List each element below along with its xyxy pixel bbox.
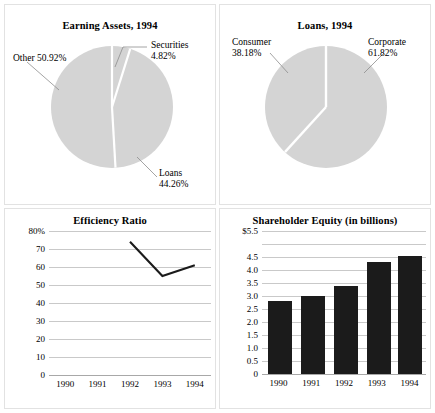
y-tick: 60 bbox=[36, 263, 45, 272]
y-tick: 3.5 bbox=[247, 279, 258, 288]
gridline bbox=[262, 231, 426, 232]
y-tick: 10 bbox=[36, 353, 45, 362]
y-tick: 70 bbox=[36, 245, 45, 254]
figure-sheet: Earning Assets, 1994 Other 50.92% Securi… bbox=[0, 0, 435, 413]
y-tick: 40 bbox=[36, 299, 45, 308]
x-tick: 1993 bbox=[146, 379, 178, 389]
bar-1990 bbox=[268, 301, 292, 374]
leader-line-consumer bbox=[268, 51, 296, 77]
chart-title-equity: Shareholder Equity (in billions) bbox=[220, 215, 430, 226]
pie-label-corporate: Corporate 61.82% bbox=[368, 37, 406, 59]
x-tick: 1990 bbox=[49, 379, 81, 389]
pie-label-other: Other 50.92% bbox=[13, 53, 66, 64]
chart-title-efficiency: Efficiency Ratio bbox=[5, 215, 215, 226]
y-tick: 4.0 bbox=[247, 266, 258, 275]
y-tick: 0 bbox=[254, 370, 259, 379]
x-tick: 1991 bbox=[81, 379, 113, 389]
y-axis-equity: $5.5 4.5 4.0 3.5 3.0 2.5 2.0 1.5 1.0 0.5… bbox=[222, 231, 258, 374]
y-tick: 4.5 bbox=[247, 253, 258, 262]
bar-1992 bbox=[334, 286, 358, 374]
y-tick: 3.0 bbox=[247, 292, 258, 301]
pie-label-consumer: Consumer 38.18% bbox=[232, 37, 271, 59]
x-tick: 1992 bbox=[328, 378, 361, 388]
leader-line-securities bbox=[113, 45, 153, 75]
pie-label-loans: Loans 44.26% bbox=[159, 168, 188, 190]
y-tick: 20 bbox=[36, 335, 45, 344]
y-tick: $5.5 bbox=[242, 227, 258, 236]
x-tick: 1992 bbox=[114, 379, 146, 389]
bar-1991 bbox=[301, 296, 325, 374]
y-tick: 1.0 bbox=[247, 344, 258, 353]
y-tick: 30 bbox=[36, 317, 45, 326]
x-tick: 1990 bbox=[262, 378, 295, 388]
chart-panel-earning-assets: Earning Assets, 1994 Other 50.92% Securi… bbox=[4, 4, 216, 205]
chart-panel-equity: Shareholder Equity (in billions) $5.5 4.… bbox=[219, 208, 431, 409]
leader-line-other bbox=[25, 60, 75, 95]
plot-area-efficiency bbox=[49, 231, 211, 375]
y-tick: 2.0 bbox=[247, 318, 258, 327]
chart-title-loans: Loans, 1994 bbox=[220, 20, 430, 31]
gridline bbox=[262, 244, 426, 245]
bar-1994 bbox=[398, 256, 422, 374]
chart-panel-loans: Loans, 1994 Consumer 38.18% Corporate 61… bbox=[219, 4, 431, 205]
plot-area-equity bbox=[262, 231, 426, 374]
chart-title-earning-assets: Earning Assets, 1994 bbox=[5, 20, 215, 31]
y-tick: 50 bbox=[36, 281, 45, 290]
x-tick: 1991 bbox=[295, 378, 328, 388]
y-axis-efficiency: 80% 70 60 50 40 30 20 10 0 bbox=[9, 231, 45, 375]
x-axis-line bbox=[262, 374, 426, 375]
x-axis-equity: 1990 1991 1992 1993 1994 bbox=[262, 378, 426, 388]
pie-label-securities: Securities 4.82% bbox=[151, 40, 188, 62]
x-axis-efficiency: 1990 1991 1992 1993 1994 bbox=[49, 379, 211, 389]
y-tick: 0 bbox=[41, 371, 46, 380]
y-tick: 1.5 bbox=[247, 331, 258, 340]
x-tick: 1994 bbox=[393, 378, 426, 388]
chart-panel-efficiency: Efficiency Ratio 80% 70 60 50 40 30 20 1… bbox=[4, 208, 216, 409]
x-axis-line bbox=[49, 375, 211, 376]
bar-1993 bbox=[367, 262, 391, 374]
y-tick: 2.5 bbox=[247, 305, 258, 314]
line-series-efficiency bbox=[49, 231, 211, 375]
y-tick: 80% bbox=[29, 227, 46, 236]
x-tick: 1993 bbox=[360, 378, 393, 388]
x-tick: 1994 bbox=[179, 379, 211, 389]
y-tick: 0.5 bbox=[247, 357, 258, 366]
